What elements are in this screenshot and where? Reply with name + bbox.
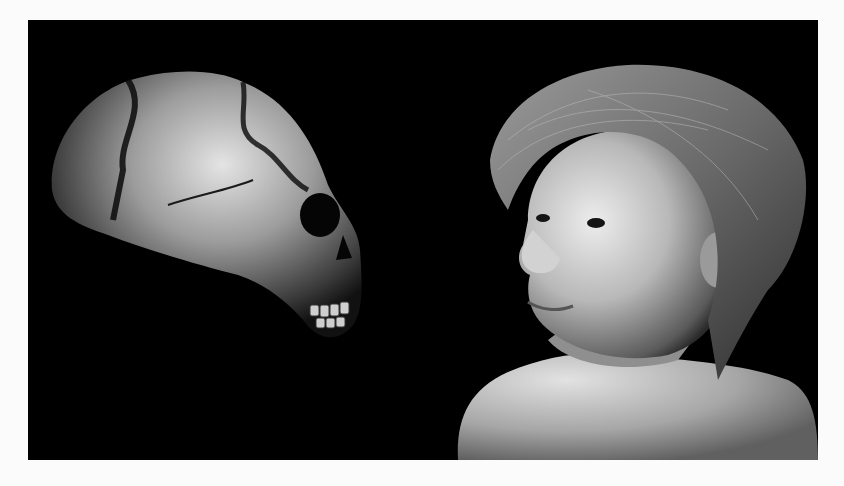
photograph [28,20,818,460]
skull [52,72,362,338]
child-reconstruction [458,65,818,460]
photo-scene [28,20,818,460]
